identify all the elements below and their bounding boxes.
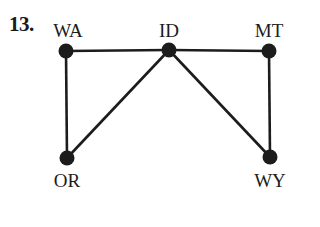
- edge-id-or: [67, 50, 169, 158]
- node-id: [162, 43, 177, 58]
- node-label-wa: WA: [53, 20, 83, 42]
- edges: [66, 50, 270, 158]
- edge-id-mt: [169, 50, 269, 51]
- node-or: [60, 151, 75, 166]
- edge-id-wy: [169, 50, 270, 157]
- nodes: [59, 43, 278, 166]
- edge-mt-wy: [269, 51, 270, 157]
- node-label-wy: WY: [254, 170, 286, 192]
- edge-wa-or: [66, 51, 67, 158]
- node-mt: [262, 44, 277, 59]
- node-label-id: ID: [159, 20, 179, 42]
- edge-wa-id: [66, 50, 169, 51]
- node-wy: [263, 150, 278, 165]
- node-wa: [59, 44, 74, 59]
- node-label-or: OR: [54, 170, 80, 192]
- node-label-mt: MT: [255, 20, 284, 42]
